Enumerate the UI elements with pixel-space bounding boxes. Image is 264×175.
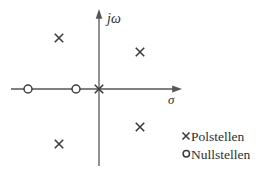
legend: Polstellen Nullstellen — [183, 129, 251, 162]
pole-zero-diagram: jω σ Polstellen Nullstellen — [0, 0, 264, 175]
pole-zero-canvas: jω σ Polstellen Nullstellen — [0, 0, 264, 175]
pole-mark — [55, 140, 63, 148]
pole-mark — [136, 123, 144, 131]
imaginary-axis-label: jω — [105, 11, 121, 26]
pole-mark — [55, 34, 63, 42]
zero-legend-marker-icon — [183, 151, 189, 157]
pole-legend-label: Polstellen — [191, 129, 244, 144]
real-axis-label: σ — [168, 92, 175, 107]
zero-legend-label: Nullstellen — [191, 147, 250, 162]
pole-legend-marker-icon — [183, 133, 190, 140]
zero-mark — [72, 85, 80, 93]
zero-mark — [24, 85, 32, 93]
imaginary-axis-arrow-icon — [96, 9, 103, 19]
pole-mark — [136, 48, 144, 56]
